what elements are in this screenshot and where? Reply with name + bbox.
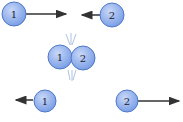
collision-stage: 1 2 [48, 33, 95, 81]
ball-2-label: 2 [124, 96, 130, 107]
collision-diagram: 1 2 1 2 1 2 [0, 0, 183, 122]
after-stage: 1 2 [16, 90, 179, 112]
ball-1-label: 1 [42, 96, 48, 107]
ball-1-label: 1 [11, 9, 17, 20]
ball-2-label: 2 [80, 53, 86, 64]
ball-1-label: 1 [57, 52, 63, 63]
before-stage: 1 2 [2, 2, 124, 27]
ball-2-label: 2 [109, 10, 115, 21]
